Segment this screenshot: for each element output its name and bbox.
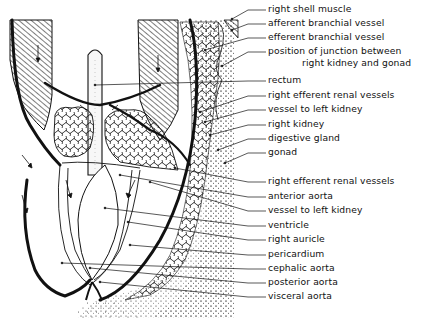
anatomical-diagram: right shell muscle afferent branchial ve… xyxy=(0,0,423,329)
aortas xyxy=(86,282,102,300)
label-junction-kidney-gonad-line2: right kidney and gonad xyxy=(302,58,411,68)
label-right-auricle: right auricle xyxy=(268,234,325,244)
label-right-efferent-renal-vessels-1: right efferent renal vessels xyxy=(268,90,394,100)
label-cephalic-aorta: cephalic aorta xyxy=(268,263,335,273)
label-digestive-gland: digestive gland xyxy=(268,133,340,143)
label-pericardium: pericardium xyxy=(268,249,324,259)
label-right-kidney: right kidney xyxy=(268,119,324,129)
label-vessel-to-left-kidney-2: vessel to left kidney xyxy=(268,205,362,215)
leader-right-shell-muscle xyxy=(232,10,266,19)
label-posterior-aorta: posterior aorta xyxy=(268,277,338,287)
label-afferent-branchial-vessel: afferent branchial vessel xyxy=(268,18,384,28)
label-right-efferent-renal-vessels-2: right efferent renal vessels xyxy=(268,176,394,186)
label-rectum: rectum xyxy=(268,75,301,85)
label-anterior-aorta: anterior aorta xyxy=(268,191,333,201)
leader-rectum xyxy=(95,81,266,85)
label-gonad: gonad xyxy=(268,147,297,157)
label-junction-kidney-gonad: position of junction between xyxy=(268,46,401,56)
label-efferent-branchial-vessel: efferent branchial vessel xyxy=(268,32,384,42)
label-ventricle: ventricle xyxy=(268,220,309,230)
label-vessel-to-left-kidney-1: vessel to left kidney xyxy=(268,104,362,114)
label-right-shell-muscle: right shell muscle xyxy=(268,4,351,14)
left-kidney xyxy=(54,107,94,157)
label-visceral-aorta: visceral aorta xyxy=(268,291,332,301)
